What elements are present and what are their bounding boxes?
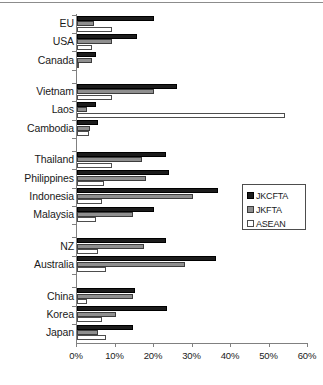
y-axis-tick	[72, 51, 76, 52]
legend-swatch-icon	[247, 220, 254, 227]
bar-jkcfta-malaysia	[77, 207, 154, 212]
category-label: Vietnam	[36, 85, 74, 97]
bar-jkcfta-nz	[77, 238, 166, 243]
legend-label: JKCFTA	[256, 191, 288, 201]
bar-jkcfta-eu	[77, 16, 154, 21]
legend-swatch-icon	[247, 192, 254, 199]
bar-asean-japan	[77, 335, 106, 340]
bar-asean-cambodia	[77, 131, 89, 136]
bar-asean-laos	[77, 113, 285, 118]
x-axis-tick	[269, 343, 270, 347]
category-label: Canada	[38, 54, 74, 66]
y-axis-tick	[72, 169, 76, 170]
bar-jkfta-nz	[77, 244, 144, 249]
bar-asean-china	[77, 299, 87, 304]
y-axis-tick	[72, 101, 76, 102]
bar-jkcfta-thailand	[77, 152, 166, 157]
bar-jkcfta-vietnam	[77, 84, 177, 89]
chart-legend: JKCFTA JKFTA ASEAN	[242, 184, 306, 230]
legend-label: ASEAN	[256, 219, 286, 229]
category-label: Indonesia	[29, 190, 74, 202]
y-axis-tick	[72, 324, 76, 325]
x-axis-tick-label: 40%	[213, 350, 247, 361]
bar-jkcfta-laos	[77, 102, 96, 107]
y-axis-tick	[72, 224, 76, 225]
category-label: China	[47, 290, 74, 302]
bar-jkcfta-indonesia	[77, 188, 218, 193]
bar-asean-malaysia	[77, 217, 96, 222]
bar-jkfta-vietnam	[77, 89, 154, 94]
top-divider	[0, 2, 323, 3]
bar-jkfta-philippines	[77, 176, 146, 181]
bar-jkfta-eu	[77, 21, 94, 26]
x-axis-tick	[76, 343, 77, 347]
bar-jkfta-korea	[77, 312, 116, 317]
y-axis-tick	[72, 287, 76, 288]
y-axis-tick	[72, 83, 76, 84]
y-axis-tick	[72, 33, 76, 34]
bar-asean-indonesia	[77, 199, 102, 204]
bar-chart: 0%10%20%30%40%50%60% EUUSACanadaVietnamL…	[0, 0, 323, 385]
bar-jkcfta-australia	[77, 256, 216, 261]
bar-asean-eu	[77, 27, 112, 32]
y-axis-tick	[72, 274, 76, 275]
legend-item-jkfta: JKFTA	[247, 203, 302, 216]
category-label: Laos	[52, 103, 74, 115]
bar-jkcfta-japan	[77, 325, 133, 330]
plot-area: 0%10%20%30%40%50%60% EUUSACanadaVietnamL…	[0, 14, 323, 344]
y-axis-tick	[72, 151, 76, 152]
bar-asean-canada	[77, 63, 79, 68]
bar-asean-vietnam	[77, 95, 112, 100]
x-axis-tick	[192, 343, 193, 347]
bar-asean-nz	[77, 249, 98, 254]
y-axis-tick	[72, 206, 76, 207]
category-label: Korea	[46, 308, 74, 320]
category-label: Philippines	[24, 172, 74, 184]
bar-jkfta-china	[77, 294, 133, 299]
bar-jkcfta-canada	[77, 52, 96, 57]
x-axis-tick-label: 10%	[98, 350, 132, 361]
x-axis-tick-label: 50%	[252, 350, 286, 361]
category-label: Australia	[34, 258, 74, 270]
category-label: Cambodia	[27, 122, 74, 134]
bar-jkfta-australia	[77, 262, 185, 267]
legend-item-asean: ASEAN	[247, 217, 302, 230]
bar-jkfta-japan	[77, 330, 98, 335]
bar-jkfta-cambodia	[77, 126, 90, 131]
bar-jkfta-canada	[77, 58, 92, 63]
y-axis-tick	[72, 15, 76, 16]
legend-label: JKFTA	[256, 205, 282, 215]
bar-jkcfta-korea	[77, 306, 167, 311]
category-label: Japan	[46, 326, 74, 338]
bar-jkfta-malaysia	[77, 212, 133, 217]
bar-asean-korea	[77, 317, 102, 322]
bar-jkfta-indonesia	[77, 194, 193, 199]
x-axis-tick	[230, 343, 231, 347]
bar-asean-philippines	[77, 181, 104, 186]
category-label: Malaysia	[33, 208, 74, 220]
bar-jkfta-laos	[77, 107, 87, 112]
bar-asean-usa	[77, 45, 92, 50]
x-axis-tick-label: 30%	[175, 350, 209, 361]
x-axis-tick-label: 20%	[136, 350, 170, 361]
bar-asean-thailand	[77, 163, 112, 168]
x-axis-tick	[115, 343, 116, 347]
category-label: EU	[60, 17, 74, 29]
x-axis-tick-label: 0%	[59, 350, 93, 361]
legend-item-jkcfta: JKCFTA	[247, 189, 302, 202]
bar-jkcfta-china	[77, 288, 135, 293]
y-axis-tick	[72, 70, 76, 71]
category-label: USA	[53, 35, 74, 47]
bar-jkcfta-usa	[77, 34, 137, 39]
category-label: Thailand	[35, 153, 74, 165]
category-label: NZ	[60, 240, 74, 252]
bar-asean-australia	[77, 267, 106, 272]
x-axis-tick	[307, 343, 308, 347]
bar-jkfta-usa	[77, 39, 112, 44]
bar-jkcfta-philippines	[77, 170, 169, 175]
bar-jkcfta-cambodia	[77, 120, 98, 125]
bar-jkfta-thailand	[77, 157, 142, 162]
legend-swatch-icon	[247, 206, 254, 213]
y-axis-tick	[72, 138, 76, 139]
x-axis-tick	[153, 343, 154, 347]
